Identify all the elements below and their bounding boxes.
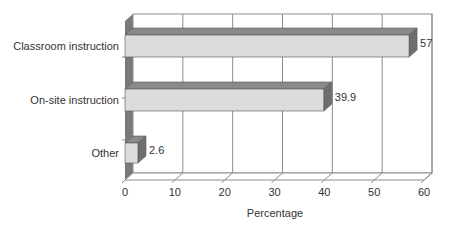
x-axis-ticks: 0102030405060 [122,180,430,198]
category-label: Classroom instruction [13,40,119,52]
x-tick-label: 10 [169,186,181,198]
x-axis-label: Percentage [247,207,303,219]
x-tick-label: 30 [268,186,280,198]
bar-0: 57 [125,28,432,57]
x-tick-label: 0 [122,186,128,198]
bar-2: 2.6 [125,136,164,163]
category-label: On-site instruction [30,94,119,106]
bar-chart: 5739.92.6 Classroom instructionOn-site i… [0,0,449,232]
bar-1: 39.9 [125,82,356,111]
x-tick [122,180,125,183]
bar-top [125,28,417,35]
bar-top [125,82,332,89]
bar-front [125,143,138,163]
x-tick-label: 60 [418,186,430,198]
bar-front [125,35,409,57]
x-tick-label: 20 [219,186,231,198]
data-label: 39.9 [335,91,356,103]
category-label: Other [91,147,119,159]
x-tick-label: 40 [318,186,330,198]
data-label: 57 [420,37,432,49]
x-tick-label: 50 [368,186,380,198]
bars: 5739.92.6 [125,28,432,163]
bar-front [125,89,324,111]
data-label: 2.6 [149,144,164,156]
category-labels: Classroom instructionOn-site instruction… [13,40,119,159]
